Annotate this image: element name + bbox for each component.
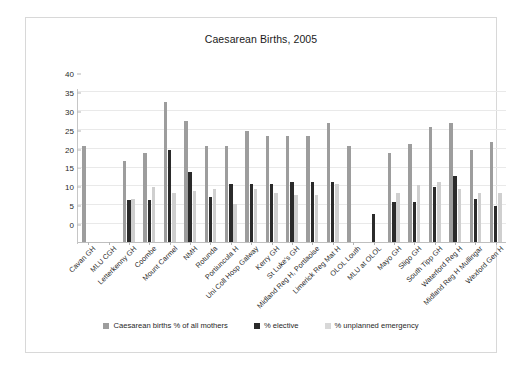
bar-group (368, 91, 380, 242)
bar-emergency (131, 199, 134, 242)
y-axis-tick-label: 15 (44, 164, 74, 173)
legend-swatch (254, 323, 260, 329)
bar-group (82, 91, 94, 242)
bar-elective (229, 184, 232, 243)
bar-group (490, 91, 502, 242)
bar-total (388, 153, 391, 242)
bar-emergency (335, 184, 338, 243)
bar-emergency (274, 193, 277, 242)
bar-group (245, 91, 257, 242)
bar-group (470, 91, 482, 242)
bar-total (408, 144, 411, 242)
bar-group (286, 91, 298, 242)
bar-total (164, 102, 167, 242)
bar-total (286, 136, 289, 242)
bar-elective (331, 182, 334, 242)
bar-group (327, 91, 339, 242)
bar-group (429, 91, 441, 242)
bar-group (184, 91, 196, 242)
bar-emergency (478, 193, 481, 242)
legend-label: % unplanned emergency (335, 321, 419, 330)
bar-group (388, 91, 400, 242)
bar-emergency (437, 182, 440, 242)
bar-group (205, 91, 217, 242)
bar-total (225, 146, 228, 242)
legend-item[interactable]: Caesarean births % of all mothers (103, 321, 227, 330)
bar-emergency (417, 185, 420, 242)
bar-elective (290, 182, 293, 242)
bar-emergency (213, 189, 216, 242)
bar-elective (209, 197, 212, 242)
y-axis-tick-label: 25 (44, 126, 74, 135)
plot-area (78, 91, 506, 242)
y-axis-tick-label: 0 (44, 221, 74, 230)
bar-total (82, 146, 85, 242)
legend-swatch (103, 323, 109, 329)
legend-swatch (325, 323, 331, 329)
bar-elective (311, 182, 314, 242)
bar-total (347, 146, 350, 242)
x-axis-tick-mark (374, 242, 375, 245)
bar-elective (392, 202, 395, 242)
legend-item[interactable]: % elective (254, 321, 299, 330)
bar-elective (372, 214, 375, 242)
bar-emergency (294, 195, 297, 242)
bar-group (103, 91, 115, 242)
bar-group (306, 91, 318, 242)
bar-emergency (315, 195, 318, 242)
legend-item[interactable]: % unplanned emergency (325, 321, 419, 330)
bar-total (470, 150, 473, 242)
y-axis-tick-label: 5 (44, 202, 74, 211)
bar-group (408, 91, 420, 242)
bar-total (184, 121, 187, 242)
bar-total (205, 146, 208, 242)
legend-label: % elective (264, 321, 299, 330)
bar-emergency (193, 191, 196, 242)
y-axis-tick-label: 30 (44, 107, 74, 116)
bar-emergency (254, 189, 257, 242)
bar-emergency (152, 187, 155, 242)
bar-elective (148, 200, 151, 242)
bar-emergency (172, 193, 175, 242)
bar-elective (250, 184, 253, 243)
y-axis-tick-mark (77, 74, 81, 75)
bar-elective (453, 176, 456, 242)
bar-total (245, 131, 248, 242)
chart-title: Caesarean Births, 2005 (26, 33, 496, 45)
bar-elective (168, 150, 171, 242)
y-axis-tick-label: 20 (44, 145, 74, 154)
bar-total (306, 136, 309, 242)
bar-group (449, 91, 461, 242)
bar-total (327, 123, 330, 242)
bar-emergency (396, 193, 399, 242)
bar-total (490, 142, 493, 242)
bar-group (347, 91, 359, 242)
y-axis-tick-label: 40 (44, 70, 74, 79)
bar-group (266, 91, 278, 242)
bar-elective (433, 187, 436, 242)
x-axis-tick-mark (109, 242, 110, 245)
bar-emergency (458, 189, 461, 242)
bar-elective (413, 202, 416, 242)
y-axis-tick-label: 35 (44, 88, 74, 97)
legend-label: Caesarean births % of all mothers (113, 321, 227, 330)
bar-group (225, 91, 237, 242)
bar-emergency (233, 204, 236, 242)
bar-total (449, 123, 452, 242)
bar-elective (188, 172, 191, 242)
bar-elective (127, 200, 130, 242)
x-axis-tick-mark (272, 242, 273, 245)
chart-frame: Caesarean Births, 2005 0510152025303540 … (25, 17, 497, 353)
y-axis-tick-label: 10 (44, 183, 74, 192)
bar-emergency (498, 193, 501, 242)
bar-total (266, 136, 269, 242)
bar-elective (494, 206, 497, 242)
bar-group (123, 91, 135, 242)
bar-total (429, 127, 432, 242)
bar-total (143, 153, 146, 242)
chart-legend: Caesarean births % of all mothers% elect… (26, 321, 496, 330)
bar-elective (474, 199, 477, 242)
bar-total (123, 161, 126, 242)
bar-group (143, 91, 155, 242)
bar-group (164, 91, 176, 242)
